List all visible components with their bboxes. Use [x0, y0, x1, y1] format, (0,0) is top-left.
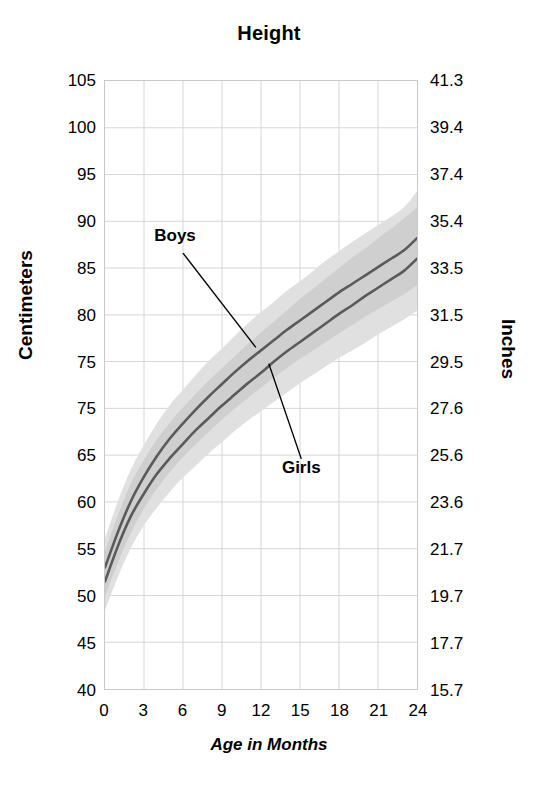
y-tick-right: 21.7 [430, 541, 490, 558]
y-tick-left: 55 [40, 541, 96, 558]
y-tick-left: 45 [40, 635, 96, 652]
y-tick-left: 85 [40, 260, 96, 277]
y-tick-right: 37.4 [430, 166, 490, 183]
y-tick-right: 33.5 [430, 260, 490, 277]
y-tick-left: 90 [40, 213, 96, 230]
x-tick: 0 [87, 702, 121, 719]
y-tick-right: 31.5 [430, 307, 490, 324]
x-tick: 15 [283, 702, 317, 719]
y-tick-right: 15.7 [430, 682, 490, 699]
y-tick-left: 50 [40, 588, 96, 605]
y-tick-right: 19.7 [430, 588, 490, 605]
x-tick: 9 [205, 702, 239, 719]
plot-area [104, 80, 418, 690]
x-axis-title: Age in Months [0, 735, 538, 755]
y-tick-right: 17.7 [430, 635, 490, 652]
x-tick: 24 [401, 702, 435, 719]
x-tick: 12 [244, 702, 278, 719]
y-tick-left: 100 [40, 119, 96, 136]
x-tick: 18 [323, 702, 357, 719]
y-tick-right: 27.6 [430, 400, 490, 417]
y-tick-left: 65 [40, 447, 96, 464]
x-tick: 21 [362, 702, 396, 719]
y-tick-right: 41.3 [430, 72, 490, 89]
y-tick-left: 75 [40, 400, 96, 417]
x-tick: 3 [126, 702, 160, 719]
growth-chart: Height Centimeters Inches Age in Months … [0, 0, 538, 785]
y-tick-right: 25.6 [430, 447, 490, 464]
leader-line-boys [183, 253, 256, 347]
x-tick: 6 [166, 702, 200, 719]
y-tick-right: 35.4 [430, 213, 490, 230]
y-axis-title-left: Centimeters [15, 235, 37, 375]
y-tick-left: 80 [40, 307, 96, 324]
y-tick-left: 60 [40, 494, 96, 511]
series-label-girls: Girls [282, 459, 321, 476]
y-axis-title-right: Inches [497, 289, 519, 409]
y-tick-right: 29.5 [430, 354, 490, 371]
y-tick-left: 40 [40, 682, 96, 699]
plot-canvas [105, 81, 417, 689]
series-label-boys: Boys [154, 227, 196, 244]
page-title: Height [0, 22, 538, 45]
y-tick-left: 105 [40, 72, 96, 89]
y-tick-right: 23.6 [430, 494, 490, 511]
y-tick-right: 39.4 [430, 119, 490, 136]
y-tick-left: 95 [40, 166, 96, 183]
y-tick-left: 75 [40, 354, 96, 371]
